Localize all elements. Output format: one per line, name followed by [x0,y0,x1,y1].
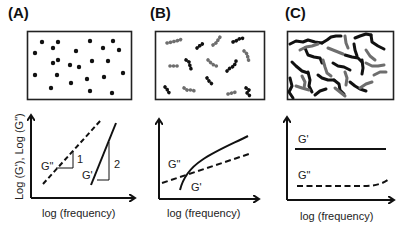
schematic-a [28,32,132,100]
schematic-b [156,32,265,100]
schematic-c [288,32,394,100]
slope-label-1: 1 [77,153,83,165]
curve-label-g-prime-b: G' [191,181,202,193]
x-axis-label-c: log (frequency) [300,210,373,222]
curve-label-g-prime-a: G' [82,169,93,181]
g-prime-curve-a [91,123,116,185]
curve-label-g-double-prime-b: G" [168,158,180,170]
x-axis-label-a: log (frequency) [42,207,115,219]
x-axis-label-b: log (frequency) [167,207,240,219]
y-axis-label-a: Log (G'), Log (G") [13,113,25,200]
g-double-prime-curve-c [297,178,390,186]
figure-canvas [0,0,407,230]
curve-label-g-double-prime-c: G" [298,169,310,181]
slope-label-2: 2 [114,158,120,170]
curve-label-g-prime-c: G' [298,133,309,145]
curve-label-g-double-prime-a: G" [41,160,53,172]
plot-c [287,118,393,200]
slope-triangle-2 [97,142,109,180]
